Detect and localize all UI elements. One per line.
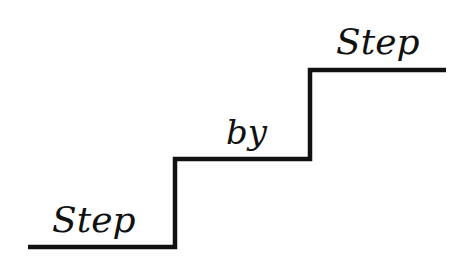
word-by-middle: by (226, 115, 267, 149)
word-step-bottom: Step (52, 202, 135, 238)
word-step-top: Step (336, 24, 419, 60)
